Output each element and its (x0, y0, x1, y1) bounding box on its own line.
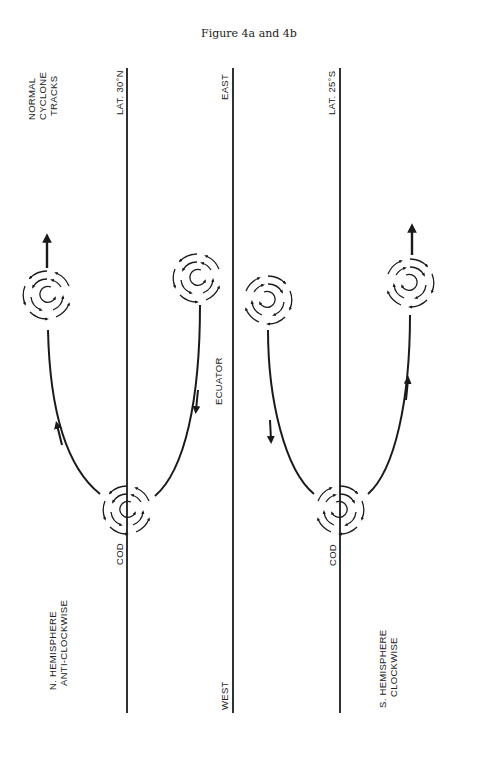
track-recurve-south (368, 315, 410, 494)
n-hemisphere-label-line1: N. HEMISPHERE (47, 611, 58, 690)
s-hemisphere-label-line1: S. HEMISPHERE (377, 630, 388, 708)
equator-label: ECUATOR (213, 357, 224, 405)
lat-30n-label: LAT. 30°N (114, 70, 125, 115)
s-hemisphere-label-line2: CLOCKWISE (388, 637, 399, 697)
cyclone-track-diagram: LAT. 30°N ECUATOR LAT. 25°S EAST WEST NO… (0, 0, 478, 757)
cyclone-south-recurved-icon (388, 259, 434, 307)
track-to-equator-south (268, 330, 314, 494)
cod-north-label: COD (114, 543, 125, 565)
track-to-equator-north (155, 305, 200, 496)
cod-south-label: COD (327, 544, 338, 566)
west-label: WEST (219, 681, 230, 710)
east-label: EAST (219, 74, 230, 100)
cyclone-south-equatorward-icon (246, 276, 292, 324)
normal-tracks-label-line1: NORMAL (26, 78, 37, 120)
cyclone-north-recurved-icon (23, 271, 69, 319)
panel-4a-tracks (47, 238, 200, 496)
normal-tracks-label-line3: TRACKS (48, 76, 59, 116)
cyclone-north-equatorward-icon (173, 254, 219, 302)
lat-25s-label: LAT. 25°S (326, 71, 337, 115)
track-recurve-north (48, 330, 100, 494)
n-hemisphere-label-line2: ANTI-CLOCKWISE (58, 600, 69, 686)
normal-tracks-label-line2: CYCLONE (37, 72, 48, 120)
